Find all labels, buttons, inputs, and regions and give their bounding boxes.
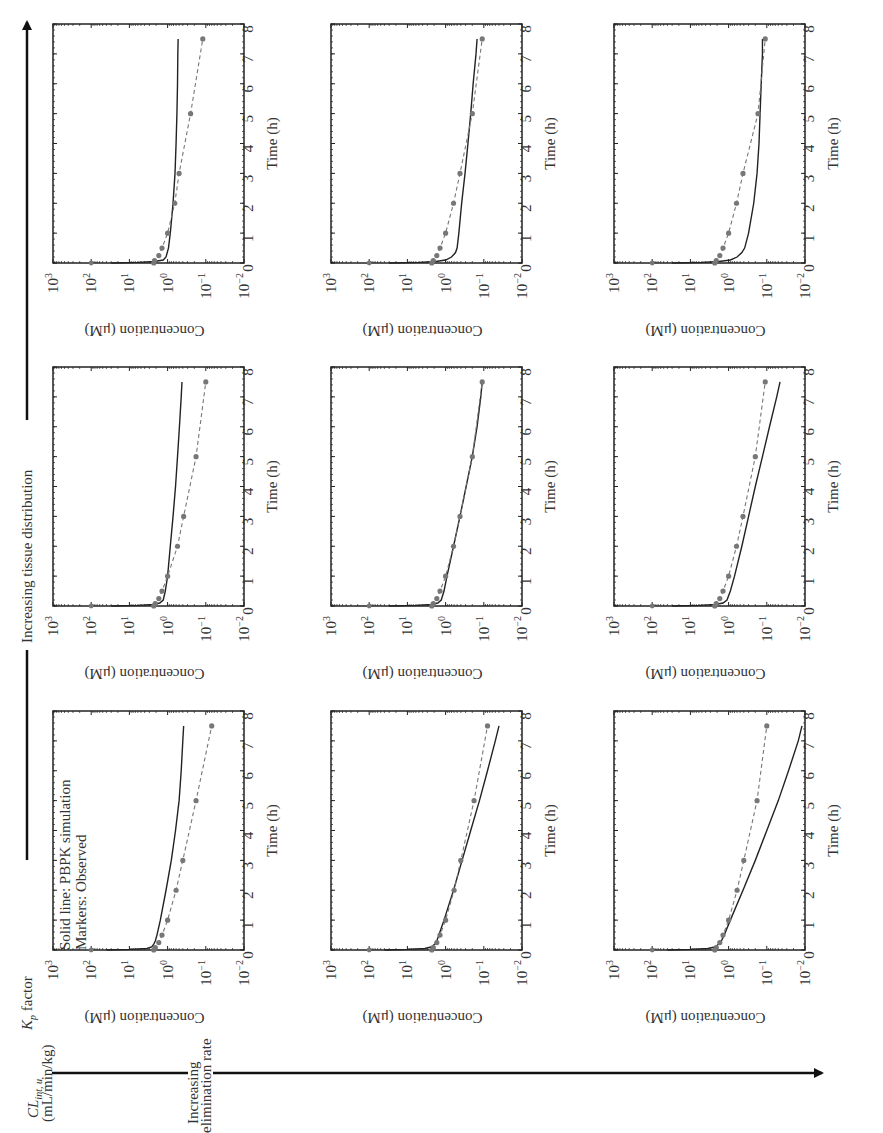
observed-point [720, 588, 725, 593]
time-tick-label: 7 [518, 398, 534, 406]
time-tick-label: 1 [518, 577, 534, 585]
plot-frame [331, 24, 522, 263]
initial-marker [367, 261, 372, 266]
simulation-line [389, 382, 482, 606]
observed-point [451, 201, 456, 206]
observed-point [754, 798, 759, 803]
conc-axis-title: Concentration (μM) [84, 665, 204, 682]
panel-3: 01234567810310210110010−110−2Time (h)Con… [604, 24, 842, 339]
initial-marker [650, 948, 655, 953]
time-tick-label: 1 [518, 921, 534, 929]
observed-point [470, 454, 475, 459]
observed-point [740, 514, 745, 519]
time-tick-label: 3 [240, 518, 256, 526]
conc-tick-label: 101 [397, 273, 415, 293]
conc-tick-label: 100 [158, 273, 176, 293]
time-tick-label: 4 [518, 831, 534, 839]
conc-tick-label: 10−1 [474, 960, 492, 986]
simulation-line [667, 726, 802, 950]
observed-point [431, 601, 436, 606]
conc-tick-label: 10−2 [234, 273, 252, 299]
initial-marker [89, 604, 94, 609]
observed-point [734, 544, 739, 549]
plot-frame [331, 367, 522, 606]
observed-line [432, 726, 488, 950]
time-tick-label: 3 [801, 518, 817, 526]
conc-tick-label: 10−2 [795, 960, 813, 986]
observed-point [193, 798, 198, 803]
observed-point [209, 723, 214, 728]
time-tick-label: 8 [240, 368, 256, 376]
conc-tick-label: 101 [397, 960, 415, 980]
conc-tick-label: 103 [43, 616, 61, 636]
conc-tick-label: 103 [43, 960, 61, 980]
conc-axis-title: Concentration (μM) [645, 1009, 765, 1026]
time-axis-title: Time (h) [542, 460, 559, 512]
time-tick-label: 4 [240, 831, 256, 839]
kp-axis: Increasing tissue distribution Kp factor [19, 22, 38, 1031]
time-tick-label: 8 [801, 712, 817, 720]
time-tick-label: 0 [518, 951, 534, 959]
conc-tick-label: 10−1 [474, 616, 492, 642]
initial-marker [367, 604, 372, 609]
time-tick-label: 0 [801, 607, 817, 615]
plot-frame [614, 711, 805, 950]
time-tick-label: 7 [240, 55, 256, 63]
time-tick-label: 6 [518, 772, 534, 780]
time-tick-label: 7 [240, 742, 256, 750]
time-tick-label: 6 [240, 772, 256, 780]
cl-axis: CLint, u (mL/min/kg) Increasing eliminat… [25, 1038, 822, 1133]
time-tick-label: 1 [518, 234, 534, 242]
conc-tick-label: 10−2 [234, 960, 252, 986]
time-tick-label: 3 [801, 175, 817, 183]
observed-point [156, 596, 161, 601]
time-tick-label: 1 [240, 234, 256, 242]
conc-tick-label: 101 [680, 616, 698, 636]
time-tick-label: 2 [801, 892, 817, 900]
conc-axis-title: Concentration (μM) [84, 1009, 204, 1026]
time-tick-label: 1 [801, 234, 817, 242]
observed-point [458, 858, 463, 863]
conc-tick-label: 100 [436, 616, 454, 636]
conc-tick-label: 102 [81, 616, 99, 636]
observed-point [470, 111, 475, 116]
time-tick-label: 7 [801, 398, 817, 406]
time-tick-label: 2 [240, 548, 256, 556]
observed-point [741, 858, 746, 863]
legend-simulation: Solid line: PBPK simulation [57, 779, 73, 950]
panels-grid: 01234567810310210110010−110−2Time (h)Con… [43, 24, 842, 1026]
observed-point [717, 596, 722, 601]
observed-point [431, 258, 436, 263]
observed-point [471, 798, 476, 803]
conc-tick-label: 103 [604, 273, 622, 293]
time-tick-label: 6 [518, 428, 534, 436]
observed-point [193, 454, 198, 459]
time-tick-label: 0 [801, 264, 817, 272]
conc-tick-label: 101 [119, 273, 137, 293]
time-tick-label: 0 [240, 951, 256, 959]
observed-point [153, 601, 158, 606]
observed-point [720, 932, 725, 937]
panel-4: 01234567810310210110010−110−2Time (h)Con… [43, 367, 281, 682]
conc-tick-label: 10−1 [757, 273, 775, 299]
observed-point [714, 601, 719, 606]
conc-axis-title: Concentration (μM) [362, 1009, 482, 1026]
time-tick-label: 7 [240, 398, 256, 406]
conc-tick-label: 100 [719, 960, 737, 980]
observed-line [154, 726, 212, 950]
observed-point [180, 858, 185, 863]
cl-direction-label-line2: elimination rate [198, 1038, 214, 1133]
time-tick-label: 5 [801, 115, 817, 123]
observed-line [715, 726, 767, 950]
observed-point [159, 588, 164, 593]
observed-point [443, 231, 448, 236]
time-tick-label: 6 [518, 85, 534, 93]
time-tick-label: 5 [240, 802, 256, 810]
observed-point [714, 258, 719, 263]
conc-tick-label: 103 [321, 616, 339, 636]
conc-tick-label: 102 [81, 960, 99, 980]
conc-tick-label: 102 [359, 960, 377, 980]
observed-point [437, 588, 442, 593]
time-tick-label: 5 [518, 458, 534, 466]
panel-6: 01234567810310210110010−110−2Time (h)Con… [604, 367, 842, 682]
